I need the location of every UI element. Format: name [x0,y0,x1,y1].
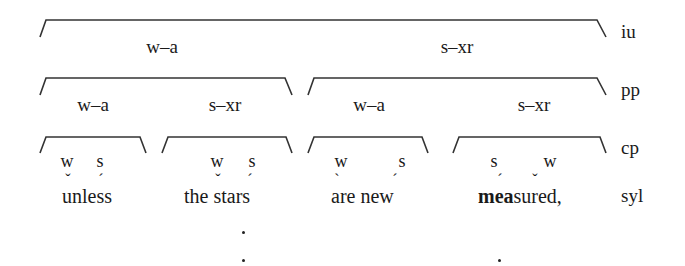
cp1-label-weak: w [61,152,74,170]
cp4-label-weak: w [544,152,557,170]
word-unless: unless [62,186,112,206]
iu-bracket [40,20,606,37]
prosodic-hierarchy-diagram: w–a s–xr w–a s–xr w–a s–xr w s w s w s s… [0,0,685,266]
word-the-stars: the stars [184,186,250,206]
cp3-label-strong: s [398,152,405,170]
pp-bracket-right [308,78,606,95]
grid-dot-measured [498,259,501,262]
pp-left-label-strong: s–xr [209,95,242,114]
tier-label-iu: iu [621,22,636,41]
bracket-lines [0,0,685,266]
cp-bracket-1 [40,137,146,153]
word-measured: measured, [478,186,562,206]
tier-label-pp: pp [621,80,640,99]
cp3-label-weak: w [335,152,348,170]
cp1-label-strong: s [96,152,103,170]
cp2-label-strong: s [248,152,255,170]
iu-label-strong: s–xr [441,37,474,56]
cp-bracket-3 [308,137,428,153]
grid-dot-stars-2 [242,259,245,262]
cp2-label-weak: w [211,152,224,170]
stressed-syllable: mea [478,185,514,207]
grid-dot-stars-1 [242,231,245,234]
cp4-label-strong: s [490,152,497,170]
cp-bracket-4 [453,137,606,153]
unstressed-remainder: sured, [514,185,562,207]
pp-bracket-left [40,78,292,95]
iu-label-weak: w–a [146,37,178,56]
tier-label-cp: cp [621,138,639,157]
tier-label-syl: syl [621,186,643,205]
word-are-new: are new [331,186,394,206]
pp-right-label-strong: s–xr [518,95,551,114]
cp-bracket-2 [162,137,292,153]
pp-left-label-weak: w–a [77,95,109,114]
pp-right-label-weak: w–a [353,95,385,114]
